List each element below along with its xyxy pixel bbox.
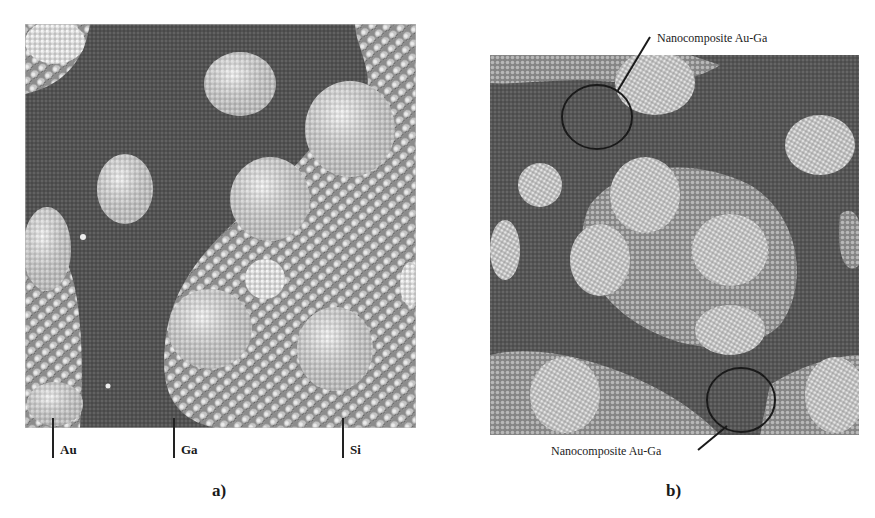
panel-a-caption: a) xyxy=(212,481,226,501)
panel-b-caption: b) xyxy=(666,481,681,501)
bottom-annotation-label: Nanocomposite Au-Ga xyxy=(551,444,661,459)
si-label: Si xyxy=(350,442,361,458)
au-label: Au xyxy=(60,442,77,458)
ga-pointer-line xyxy=(173,418,175,458)
top-annotation-label: Nanocomposite Au-Ga xyxy=(657,31,767,46)
panel-b-image xyxy=(490,55,859,435)
panel-a-image xyxy=(25,24,416,428)
au-pointer-line xyxy=(52,418,54,458)
ga-label: Ga xyxy=(181,442,198,458)
si-pointer-line xyxy=(342,418,344,458)
